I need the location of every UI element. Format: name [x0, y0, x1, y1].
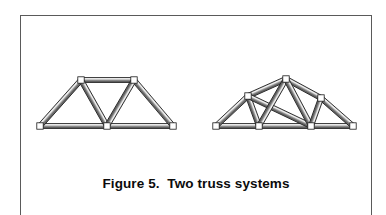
truss-member [79, 79, 109, 127]
truss-member [40, 124, 107, 129]
truss-node [37, 123, 43, 129]
truss-node [104, 123, 110, 129]
truss-node [350, 123, 356, 129]
truss-node [256, 123, 262, 129]
truss-node [170, 123, 176, 129]
truss-node [131, 77, 137, 83]
truss-member [214, 94, 249, 128]
truss-right-polygonal [213, 76, 356, 129]
truss-member [81, 78, 134, 83]
figure-caption: Figure 5. Two truss systems [20, 176, 372, 191]
truss-node [245, 93, 251, 99]
truss-node [308, 123, 314, 129]
truss-node [283, 76, 289, 82]
truss-member [38, 78, 83, 127]
truss-member [107, 124, 173, 129]
truss-member [309, 97, 324, 127]
truss-left-trapezoidal [37, 77, 176, 129]
truss-node [78, 77, 84, 83]
truss-member [105, 79, 136, 128]
truss-member [132, 78, 175, 127]
truss-node [318, 95, 324, 101]
figure-page: Figure 5. Two truss systems [0, 0, 386, 215]
truss-node [213, 123, 219, 129]
truss-member [216, 124, 259, 129]
